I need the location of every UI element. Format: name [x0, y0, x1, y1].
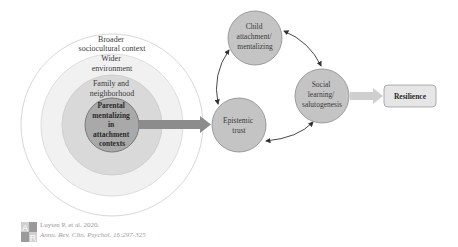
- connector-child-social: [284, 31, 321, 66]
- svg-text:A: A: [22, 223, 28, 233]
- light-arrow-social-to-resilience: [350, 88, 383, 104]
- ring-label-family: Family and neighborhood: [90, 79, 134, 98]
- svg-text:R: R: [30, 233, 37, 242]
- outcome-resilience-label: Resilience: [394, 92, 427, 101]
- annual-reviews-logo-icon: A R: [21, 222, 37, 242]
- connector-epistemic-social: [266, 122, 313, 141]
- diagram-canvas: Broader sociocultural context Wider envi…: [0, 0, 458, 247]
- citation-line-journal: Annu. Rev. Clin. Psychol. 16:297-325: [40, 230, 146, 240]
- citation-line-authors: Luyten P, et al. 2020.: [40, 220, 146, 230]
- citation-caption: Luyten P, et al. 2020. Annu. Rev. Clin. …: [40, 220, 146, 240]
- node-epistemic-trust: [212, 98, 266, 152]
- connector-child-epistemic: [216, 50, 229, 104]
